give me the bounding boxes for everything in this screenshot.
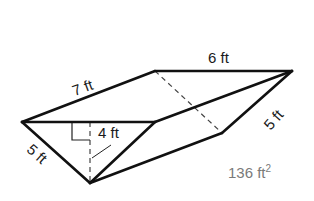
surface-area-value: 136 ft <box>228 164 266 181</box>
label-right-slant: 5 ft <box>260 105 287 132</box>
prism-diagram: 7 ft 6 ft 5 ft 5 ft 4 ft 136 ft2 <box>0 0 314 201</box>
surface-area-label: 136 ft2 <box>228 163 272 181</box>
label-height: 4 ft <box>98 124 120 141</box>
surface-area-exponent: 2 <box>266 163 272 174</box>
edge-back-right <box>222 71 292 133</box>
label-back-edge: 6 ft <box>208 49 230 66</box>
height-leader <box>92 145 111 158</box>
right-angle-marker <box>72 122 90 140</box>
